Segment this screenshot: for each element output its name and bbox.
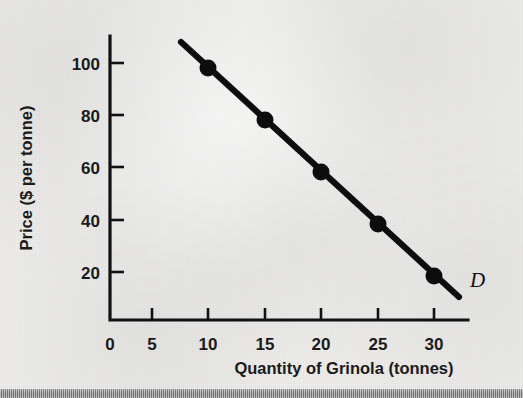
y-tick-label-100: 100 [72,55,100,74]
origin-label: 0 [105,335,114,354]
axis-lines [110,36,468,320]
x-tick-label-10: 10 [199,335,218,354]
data-point-10-100 [200,60,217,77]
y-tick-label-20: 20 [81,264,100,283]
x-axis-ticks [152,308,434,320]
x-tick-label-5: 5 [147,335,156,354]
y-axis-title: Price ($ per tonne) [17,106,35,251]
data-point-15-80 [257,112,274,129]
y-axis-ticks [110,63,124,272]
y-axis-tick-labels: 100 80 60 40 20 [72,55,100,283]
figure-page: 100 80 60 40 20 0 5 10 15 20 25 30 D [0,0,523,398]
y-tick-label-60: 60 [81,159,100,178]
x-tick-label-15: 15 [256,335,275,354]
y-tick-label-80: 80 [81,107,100,126]
x-tick-label-30: 30 [425,335,444,354]
x-tick-label-25: 25 [369,335,388,354]
data-point-30-20 [426,268,443,285]
demand-curve-chart: 100 80 60 40 20 0 5 10 15 20 25 30 D [0,0,523,398]
y-tick-label-40: 40 [81,212,100,231]
x-tick-label-20: 20 [312,335,331,354]
data-point-25-40 [370,216,387,233]
x-axis-tick-labels: 5 10 15 20 25 30 [147,335,443,354]
data-point-20-60 [313,164,330,181]
x-axis-title: Quantity of Grinola (tonnes) [234,359,453,377]
demand-curve-label: D [469,268,485,292]
